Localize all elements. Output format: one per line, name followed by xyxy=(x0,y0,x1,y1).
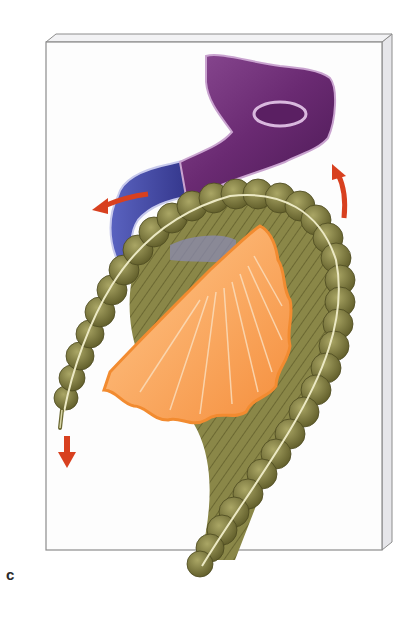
panel-label: c xyxy=(6,566,14,583)
stomach-opening xyxy=(254,102,306,126)
anatomical-illustration xyxy=(0,0,414,618)
